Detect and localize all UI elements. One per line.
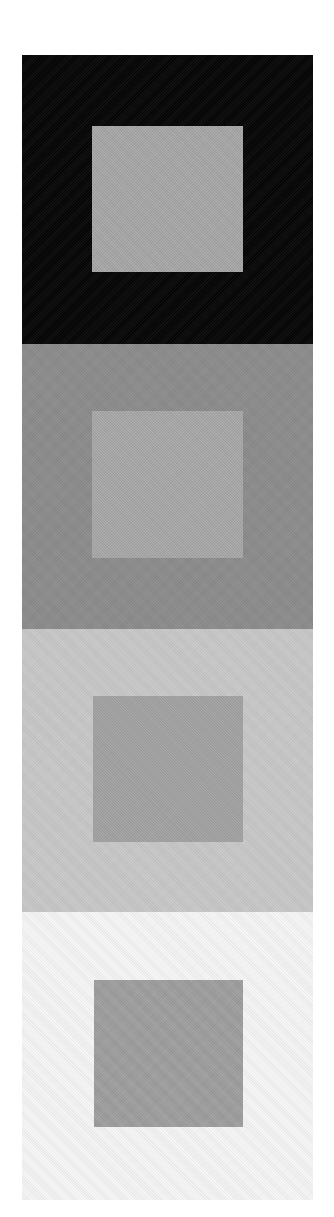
panel-light-gray-surround: [22, 629, 313, 912]
panel-dark-gray-surround: [22, 344, 313, 629]
panel-white-surround: [22, 912, 313, 1200]
center-square: [93, 696, 243, 842]
center-square: [94, 980, 243, 1127]
panel-black-surround: [22, 55, 313, 344]
center-square: [92, 126, 243, 272]
center-square: [92, 411, 243, 558]
